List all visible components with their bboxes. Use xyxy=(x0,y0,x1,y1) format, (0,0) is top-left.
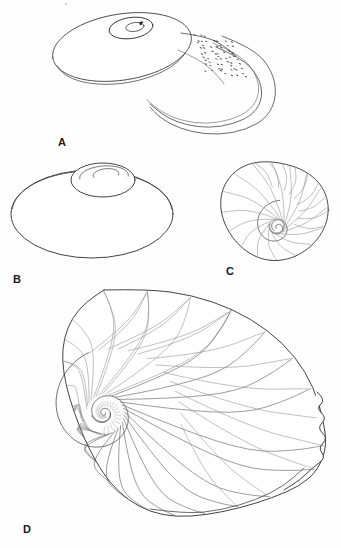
figure-label-a: A xyxy=(58,136,66,148)
scan-artifact-speck xyxy=(65,3,67,5)
shell-plate-svg: A B C D xyxy=(0,0,341,548)
figure-label-d: D xyxy=(23,523,31,535)
figure-label-c: C xyxy=(226,265,234,277)
figure-label-b: B xyxy=(13,273,21,285)
illustration-plate: A B C D xyxy=(0,0,341,548)
